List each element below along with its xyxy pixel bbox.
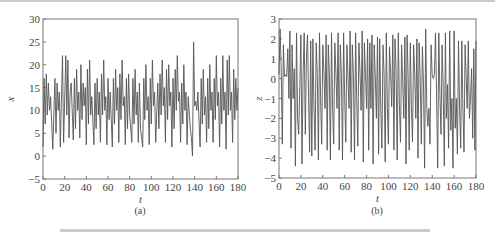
- y-tick-label: 0: [35, 150, 41, 162]
- figure-canvas: 020406080100120140160180−5051015202530 t…: [0, 0, 495, 232]
- x-tick-label: 160: [208, 181, 225, 193]
- x-tick-label: 140: [424, 180, 441, 192]
- y-tick-label: 0: [271, 73, 277, 85]
- y-tick-label: 20: [29, 59, 41, 71]
- x-tick-label: 40: [317, 180, 329, 192]
- y-tick-label: −2: [264, 112, 276, 124]
- y-tick-label: 15: [29, 82, 41, 94]
- y-tick-label: 5: [35, 127, 41, 139]
- plot-frame-a: [43, 19, 238, 179]
- y-tick-label: 2: [271, 33, 277, 45]
- x-tick-label: 40: [81, 181, 93, 193]
- x-tick-label: 0: [276, 180, 282, 192]
- ticks-a: [43, 19, 238, 179]
- y-tick-label: 25: [29, 36, 41, 48]
- y-tick-label: −1: [264, 93, 276, 105]
- x-tick-label: 60: [103, 181, 115, 193]
- caption-fragment: [60, 229, 430, 232]
- y-tick-label: 3: [271, 13, 277, 25]
- y-axis-label-a: x: [4, 96, 16, 102]
- x-tick-label: 60: [339, 180, 351, 192]
- x-tick-label: 20: [59, 181, 71, 193]
- panel-label-a: (a): [134, 205, 145, 217]
- panel-a: 020406080100120140160180−5051015202530 t…: [4, 13, 247, 217]
- x-tick-label: 0: [40, 181, 46, 193]
- x-axis-label-b: t: [376, 192, 380, 204]
- x-tick-label: 120: [165, 181, 182, 193]
- x-axis-label-a: t: [139, 193, 143, 205]
- x-tick-label: 20: [295, 180, 307, 192]
- y-tick-label: 30: [29, 13, 41, 25]
- y-tick-label: −3: [264, 132, 276, 144]
- top-text-fragment: [0, 0, 495, 2]
- x-tick-label: 160: [446, 180, 463, 192]
- panel-b: 020406080100120140160180−5−4−3−2−10123 t…: [252, 13, 485, 217]
- x-tick-label: 180: [230, 181, 247, 193]
- y-tick-label: −4: [264, 152, 276, 164]
- x-tick-label: 140: [186, 181, 203, 193]
- y-tick-label: −5: [264, 172, 276, 184]
- x-tick-label: 80: [361, 180, 373, 192]
- series-line-x: [43, 42, 238, 156]
- panel-label-b: (b): [371, 205, 383, 217]
- x-tick-label: 120: [402, 180, 419, 192]
- series-line-z: [279, 29, 476, 168]
- y-tick-label: 1: [271, 53, 277, 65]
- y-tick-label: 10: [29, 104, 41, 116]
- x-tick-label: 180: [468, 180, 485, 192]
- x-tick-label: 100: [380, 180, 397, 192]
- x-tick-label: 80: [124, 181, 136, 193]
- y-axis-label-b: z: [252, 96, 264, 102]
- x-tick-label: 100: [143, 181, 160, 193]
- y-tick-label: −5: [28, 173, 40, 185]
